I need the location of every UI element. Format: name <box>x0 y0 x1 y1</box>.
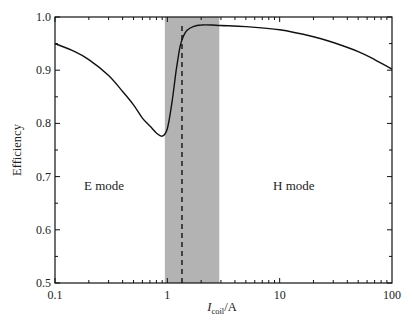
x-tick-label: 1 <box>164 288 170 302</box>
x-axis-label-sub: coil <box>211 306 224 316</box>
plot-frame <box>55 17 392 283</box>
h-mode-label: H mode <box>273 178 315 193</box>
axis-ticks <box>55 17 392 283</box>
e-mode-label: E mode <box>84 178 124 193</box>
x-tick-label: 10 <box>274 288 286 302</box>
x-tick-label: 100 <box>383 288 401 302</box>
y-tick-label: 0.5 <box>36 276 51 290</box>
x-axis-label: Icoil/A <box>206 300 236 316</box>
x-axis-label-unit: /A <box>224 300 237 314</box>
y-axis-label: Efficiency <box>10 123 24 176</box>
y-tick-label: 1.0 <box>36 10 51 24</box>
y-tick-label: 0.6 <box>36 223 51 237</box>
efficiency-chart: 0.11101000.50.60.70.80.91.0 E mode H mod… <box>0 0 412 333</box>
y-tick-label: 0.9 <box>36 63 51 77</box>
transition-shaded-region <box>165 17 219 283</box>
x-tick-label: 0.1 <box>48 288 63 302</box>
y-tick-label: 0.7 <box>36 170 51 184</box>
y-tick-label: 0.8 <box>36 116 51 130</box>
efficiency-curve <box>55 25 392 136</box>
